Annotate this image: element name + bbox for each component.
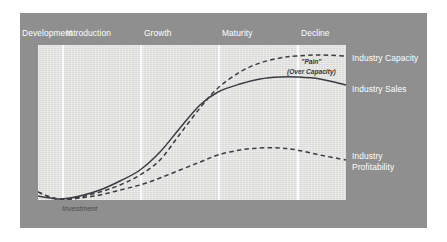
industry-profitability-curve (38, 148, 346, 200)
plot-area: "Pain" (Over Capacity) (38, 45, 346, 200)
investment-annotation: Investment (62, 205, 97, 212)
series-label-industry-profitability-line1: Industry (352, 151, 394, 162)
stage-label-growth: Growth (144, 29, 172, 37)
pain-annotation-line1: "Pain" (287, 57, 336, 67)
stage-label-development: Development (22, 29, 72, 37)
stage-label-maturity: Maturity (222, 29, 253, 37)
industry-sales-curve (38, 77, 346, 199)
pain-annotation-line2: (Over Capacity) (287, 67, 336, 77)
series-label-industry-profitability: Industry Profitability (352, 151, 394, 174)
series-label-industry-profitability-line2: Profitability (352, 162, 394, 173)
stage-label-introduction: Introduction (66, 29, 111, 37)
series-label-industry-sales: Industry Sales (352, 84, 406, 95)
chart-card: Development Introduction Growth Maturity… (20, 13, 427, 228)
series-label-industry-capacity: Industry Capacity (352, 53, 418, 64)
stage-label-decline: Decline (301, 29, 330, 37)
pain-annotation: "Pain" (Over Capacity) (287, 57, 336, 76)
industry-life-cycle-figure: Development Introduction Growth Maturity… (0, 0, 447, 242)
